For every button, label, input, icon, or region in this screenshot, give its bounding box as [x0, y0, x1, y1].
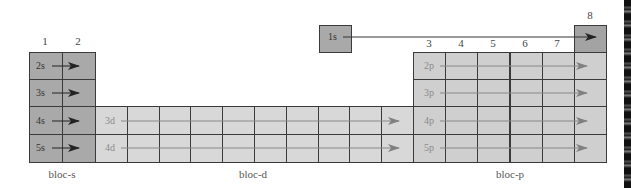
orbital-label-5p: 5p: [424, 142, 434, 153]
orbital-label-5s: 5s: [36, 142, 45, 153]
block-label-s: bloc-s: [22, 168, 102, 180]
orbital-label-4p: 4p: [424, 115, 434, 126]
orbital-label-3s: 3s: [36, 87, 45, 98]
orbital-label-4s: 4s: [36, 115, 45, 126]
orbital-label-2s: 2s: [36, 60, 45, 71]
orbital-label-1s: 1s: [328, 31, 337, 42]
block-label-d: bloc-d: [213, 168, 293, 180]
block-label-p: bloc-p: [470, 168, 550, 180]
orbital-label-3d: 3d: [105, 115, 115, 126]
scan-edge-artifact: [624, 0, 631, 188]
orbital-label-3p: 3p: [424, 87, 434, 98]
filling-arrows: [0, 0, 631, 188]
orbital-label-4d: 4d: [105, 142, 115, 153]
orbital-label-2p: 2p: [424, 60, 434, 71]
